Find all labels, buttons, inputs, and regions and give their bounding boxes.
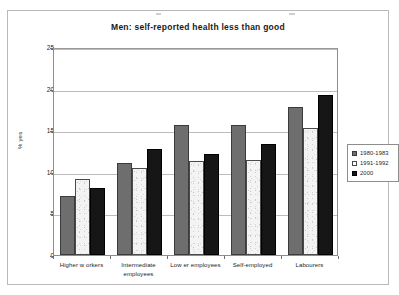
bar bbox=[318, 95, 333, 255]
bar-group bbox=[54, 47, 111, 255]
legend-item-label: 2000 bbox=[360, 170, 373, 176]
x-axis-category-label: Self-employed bbox=[224, 261, 281, 270]
chart-legend: 1980-19831991-19922000 bbox=[347, 144, 399, 182]
bar-group bbox=[111, 47, 168, 255]
x-axis-category-label: Low er employees bbox=[167, 261, 224, 270]
bar bbox=[261, 144, 276, 255]
x-axis-category-label: Labourers bbox=[281, 261, 338, 270]
x-axis-tick-mark bbox=[224, 256, 225, 259]
bar bbox=[231, 125, 246, 255]
x-axis-category-label-line: Intermediate bbox=[110, 261, 167, 270]
y-axis-title: % yes bbox=[17, 132, 23, 149]
bar bbox=[147, 149, 162, 255]
legend-swatch-icon bbox=[352, 161, 357, 166]
plot-area bbox=[53, 48, 338, 256]
x-axis-category-label: Intermediateemployees bbox=[110, 261, 167, 279]
scan-artifact bbox=[289, 13, 295, 15]
legend-item: 2000 bbox=[352, 168, 395, 178]
x-axis-tick-mark bbox=[110, 256, 111, 259]
bar bbox=[288, 107, 303, 255]
x-axis-category-label-line: Higher w orkers bbox=[53, 261, 110, 270]
bar-group bbox=[225, 47, 282, 255]
x-axis-category-label: Higher w orkers bbox=[53, 261, 110, 270]
bar bbox=[189, 161, 204, 255]
legend-swatch-icon bbox=[352, 171, 357, 176]
x-axis-tick-mark bbox=[167, 256, 168, 259]
legend-item-label: 1980-1983 bbox=[360, 150, 389, 156]
chart-title: Men: self-reported health less than good bbox=[8, 22, 388, 32]
x-axis-tick-mark bbox=[53, 256, 54, 259]
chart-frame: Men: self-reported health less than good… bbox=[7, 10, 389, 285]
bar bbox=[90, 188, 105, 255]
bar bbox=[174, 125, 189, 255]
bar-group bbox=[168, 47, 225, 255]
legend-swatch-icon bbox=[352, 151, 357, 156]
legend-item: 1980-1983 bbox=[352, 148, 395, 158]
bar-group bbox=[282, 47, 339, 255]
legend-item: 1991-1992 bbox=[352, 158, 395, 168]
bar bbox=[132, 168, 147, 255]
scan-artifact bbox=[156, 13, 161, 15]
bar bbox=[303, 128, 318, 255]
bar bbox=[60, 196, 75, 255]
bar bbox=[246, 160, 261, 255]
bar bbox=[204, 154, 219, 256]
x-axis-category-label-line: employees bbox=[110, 270, 167, 279]
bar bbox=[75, 179, 90, 255]
bar bbox=[117, 163, 132, 255]
legend-item-label: 1991-1992 bbox=[360, 160, 389, 166]
x-axis-category-label-line: Labourers bbox=[281, 261, 338, 270]
x-axis-category-label-line: Self-employed bbox=[224, 261, 281, 270]
x-axis-tick-mark bbox=[281, 256, 282, 259]
x-axis-tick-mark bbox=[338, 256, 339, 259]
x-axis-category-label-line: Low er employees bbox=[167, 261, 224, 270]
